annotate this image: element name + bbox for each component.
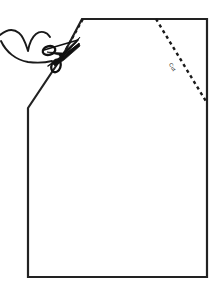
diagram-canvas: Cut [0,0,221,297]
scissors-pivot-screw [59,54,63,58]
pattern-cutting-diagram: Cut [0,0,221,297]
